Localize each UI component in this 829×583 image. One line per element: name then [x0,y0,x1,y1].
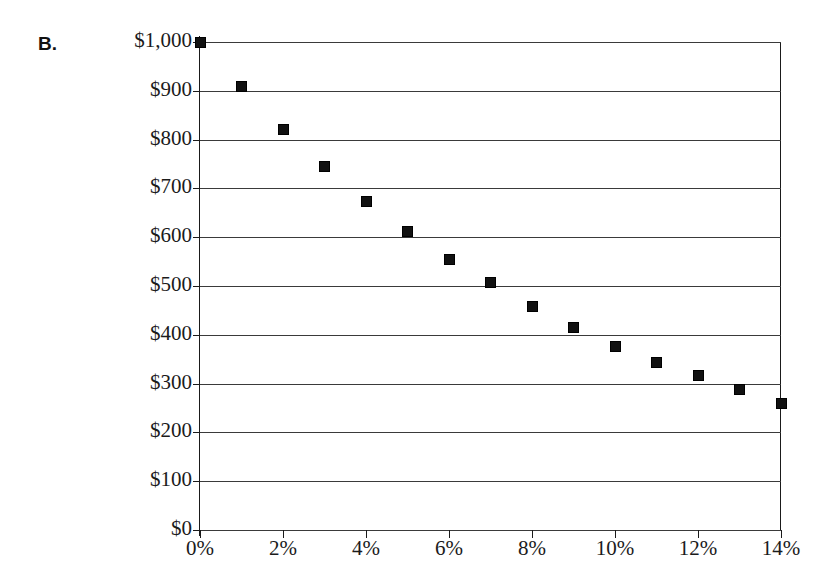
y-axis-tick-label: $600 [72,223,192,248]
gridline [200,188,781,189]
y-axis-tick-label: $300 [72,370,192,395]
x-axis-tick-labels: 0%2%4%6%8%10%12%14% [200,536,781,566]
gridline [200,530,781,531]
plot-area [200,42,781,530]
gridline [200,432,781,433]
data-point-marker [776,398,787,409]
x-axis-tick-label: 12% [653,536,743,561]
gridline [200,335,781,336]
y-axis-tick [193,188,200,189]
panel-letter-label: B. [38,33,57,55]
data-point-marker [527,301,538,312]
data-point-marker [236,81,247,92]
y-axis-tick [193,140,200,141]
data-point-marker [444,254,455,265]
x-axis-tick-label: 2% [238,536,328,561]
x-axis-tick-label: 0% [155,536,245,561]
y-axis-tick-label: $500 [72,272,192,297]
data-point-marker [734,384,745,395]
figure-panel-b: B. $0$100$200$300$400$500$600$700$800$90… [0,0,829,583]
y-axis-tick [193,237,200,238]
gridline [200,237,781,238]
y-axis-tick-label: $900 [72,77,192,102]
gridline [200,384,781,385]
data-point-marker [278,124,289,135]
data-point-marker [195,37,206,48]
y-axis-tick [193,91,200,92]
y-axis-tick-label: $700 [72,174,192,199]
x-axis-tick-label: 4% [321,536,411,561]
gridline [200,91,781,92]
x-axis-tick-label: 10% [570,536,660,561]
data-point-marker [651,357,662,368]
gridline [200,481,781,482]
y-axis-tick-label: $200 [72,418,192,443]
gridline [200,140,781,141]
y-axis-tick [193,384,200,385]
data-point-marker [402,226,413,237]
x-axis-tick-label: 6% [404,536,494,561]
y-axis-tick [193,335,200,336]
data-point-marker [610,341,621,352]
data-point-marker [693,370,704,381]
y-axis-tick [193,481,200,482]
y-axis-tick [193,286,200,287]
data-point-marker [319,161,330,172]
gridline [200,42,781,43]
data-point-marker [485,277,496,288]
x-axis-tick-label: 14% [736,536,826,561]
y-axis-tick-label: $1,000 [72,28,192,53]
data-point-marker [568,322,579,333]
x-axis-tick-label: 8% [487,536,577,561]
y-axis-tick-label: $800 [72,126,192,151]
y-axis-tick-labels: $0$100$200$300$400$500$600$700$800$900$1… [60,42,192,530]
y-axis-tick [193,530,200,531]
y-axis-tick-label: $100 [72,467,192,492]
data-point-marker [361,196,372,207]
y-axis-tick-label: $400 [72,321,192,346]
y-axis-tick [193,432,200,433]
